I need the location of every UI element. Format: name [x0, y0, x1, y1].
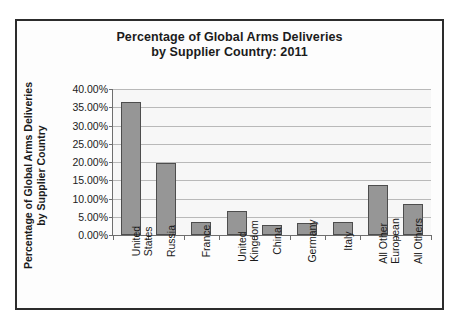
y-tick-label: 40.00% [72, 83, 108, 95]
x-tick-mark [113, 235, 114, 240]
plot-area: 40.00%35.00%30.00%25.00%20.00%15.00%10.0… [112, 89, 431, 236]
x-label-line1: All Others [412, 218, 424, 264]
x-label-slot: China [253, 241, 288, 311]
x-label-slot: Italy [324, 241, 359, 311]
bar-slot [325, 89, 360, 235]
x-label-line1: United [236, 231, 248, 261]
y-tick-label: 15.00% [72, 174, 108, 186]
y-tick-label: 20.00% [72, 156, 108, 168]
bar[interactable] [121, 102, 141, 235]
y-tick-label: 35.00% [72, 101, 108, 113]
bar-slot [396, 89, 431, 235]
bar-slot [254, 89, 289, 235]
x-axis-category-label: Russia [165, 225, 177, 257]
x-axis-labels: UnitedStatesRussiaFranceUnitedKingdomChi… [112, 241, 430, 311]
y-axis-title-line1: Percentage of Global Arms Deliveries [22, 82, 34, 269]
y-tick-label: 10.00% [72, 193, 108, 205]
bar-slot [219, 89, 254, 235]
bar-slot [360, 89, 395, 235]
y-axis-title: Percentage of Global Arms Deliveries by … [22, 76, 47, 276]
y-tick-label: 30.00% [72, 120, 108, 132]
x-label-slot: Russia [147, 241, 182, 311]
y-tick-label: 0.00% [78, 229, 108, 241]
bar-slot [184, 89, 219, 235]
bar-slot [148, 89, 183, 235]
x-label-line1: Germany [306, 219, 318, 262]
x-label-line1: Italy [342, 231, 354, 250]
x-axis-category-label: France [200, 225, 212, 258]
x-axis-category-label: All Others [412, 218, 424, 264]
x-label-slot: All Others [395, 241, 430, 311]
bar-slot [113, 89, 148, 235]
x-label-line1: All Other [377, 223, 389, 264]
bar-slot [290, 89, 325, 235]
chart-title-line2: by Supplier Country: 2011 [17, 45, 442, 60]
bar-series [113, 89, 431, 235]
x-tick-mark [184, 235, 185, 240]
x-label-slot: UnitedKingdom [218, 241, 253, 311]
x-axis-category-label: Italy [342, 231, 354, 250]
y-tick-label: 25.00% [72, 138, 108, 150]
y-tick-label: 5.00% [78, 211, 108, 223]
x-label-slot: UnitedStates [112, 241, 147, 311]
x-tick-mark [325, 235, 326, 240]
x-label-line1: China [271, 227, 283, 254]
x-tick-mark [290, 235, 291, 240]
chart-title: Percentage of Global Arms Deliveries by … [17, 30, 442, 60]
x-label-line1: Russia [165, 225, 177, 257]
x-label-slot: Germany [289, 241, 324, 311]
chart-frame: Percentage of Global Arms Deliveries by … [15, 19, 444, 310]
y-axis-title-line2: by Supplier Country [34, 76, 47, 276]
x-tick-mark [360, 235, 361, 240]
x-tick-mark [219, 235, 220, 240]
x-label-line1: France [200, 225, 212, 258]
x-label-slot: All OtherEuropean [359, 241, 394, 311]
x-tick-mark [431, 235, 432, 240]
chart-title-line1: Percentage of Global Arms Deliveries [116, 30, 342, 44]
x-label-line1: United [130, 226, 142, 256]
x-axis-category-label: China [271, 227, 283, 254]
x-label-slot: France [183, 241, 218, 311]
x-axis-category-label: Germany [306, 219, 318, 262]
